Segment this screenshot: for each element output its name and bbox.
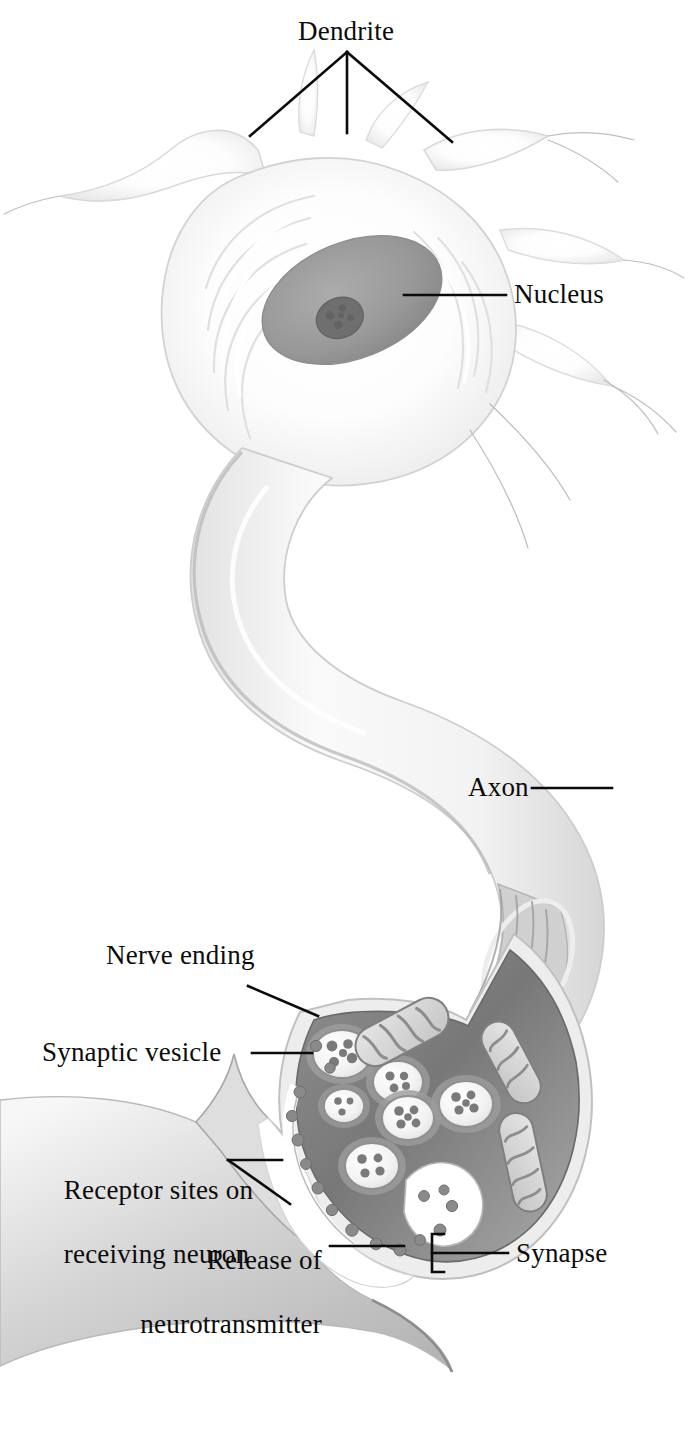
label-axon: Axon [468,772,529,803]
label-release-neurotransmitter: Release of neurotransmitter [60,1212,322,1372]
vesicle [338,1137,406,1195]
label-nucleus: Nucleus [514,279,604,310]
neuron-diagram: Dendrite Nucleus Axon Nerve ending Synap… [0,0,688,1429]
vesicle [318,1084,370,1128]
label-synaptic-vesicle: Synaptic vesicle [42,1037,221,1068]
label-dendrite: Dendrite [298,16,394,47]
label-release-line2: neurotransmitter [140,1309,322,1339]
label-nerve-ending: Nerve ending [106,940,255,971]
label-release-line1: Release of [207,1245,322,1275]
leader-nerve-ending [248,986,318,1016]
vesicle [375,1090,441,1146]
dendrite-right-mid [500,228,624,263]
leader-dendrite [250,52,452,142]
vesicle [431,1075,501,1133]
label-synapse: Synapse [516,1238,607,1269]
label-receptor-sites-line1: Receptor sites on [64,1175,253,1205]
